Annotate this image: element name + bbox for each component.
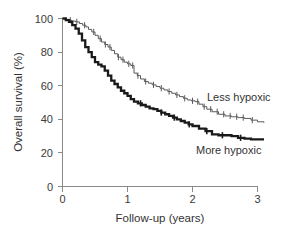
x-tick-label-0: 0 (59, 193, 65, 205)
y-tick-label-100: 100 (35, 13, 53, 25)
survival-chart-figure: 0 20 40 60 80 100 0 1 2 3 Overall surviv… (0, 0, 291, 235)
y-axis-title: Overall survival (%) (12, 52, 24, 152)
y-tick-label-40: 40 (41, 113, 53, 125)
x-tick-label-3: 3 (254, 193, 260, 205)
y-tick-marks (58, 19, 63, 187)
curve-more-hypoxic (63, 19, 265, 140)
censor-marks-less-hypoxic (70, 17, 252, 123)
x-tick-labels: 0 1 2 3 (59, 193, 260, 205)
curve-less-hypoxic (63, 19, 265, 123)
y-tick-labels: 0 20 40 60 80 100 (35, 13, 53, 193)
x-tick-label-2: 2 (189, 193, 195, 205)
series-group (63, 17, 265, 141)
x-axis-title: Follow-up (years) (116, 212, 205, 224)
series-label-less-hypoxic: Less hypoxic (207, 91, 271, 103)
x-tick-label-1: 1 (124, 193, 130, 205)
x-tick-marks (63, 187, 258, 192)
series-label-more-hypoxic: More hypoxic (196, 144, 262, 156)
y-tick-label-80: 80 (41, 46, 53, 58)
y-tick-label-20: 20 (41, 147, 53, 159)
y-tick-label-0: 0 (47, 181, 53, 193)
y-tick-label-60: 60 (41, 80, 53, 92)
plot-area: 0 20 40 60 80 100 0 1 2 3 Overall surviv… (0, 0, 291, 235)
